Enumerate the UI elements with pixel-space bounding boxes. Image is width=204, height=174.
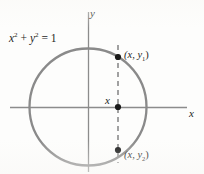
point-upper-intersection [115, 54, 121, 60]
lower-point-label-close: ) [145, 149, 149, 160]
equation-equals-one: = 1 [39, 32, 57, 44]
point-lower-intersection [115, 147, 121, 153]
x-value-marker-label: x [105, 95, 110, 106]
upper-point-label-open: (x, y [124, 49, 142, 60]
lower-point-label: (x, y2) [124, 150, 149, 161]
figure-canvas [0, 0, 204, 174]
math-figure-unit-circle: x2 + y2 = 1 y x x (x, y1) (x, y2) [0, 0, 204, 174]
point-on-x-axis [115, 104, 121, 110]
lower-point-label-open: (x, y [124, 149, 142, 160]
equation-label: x2 + y2 = 1 [9, 33, 57, 45]
upper-point-label: (x, y1) [124, 50, 149, 61]
upper-point-label-close: ) [145, 49, 149, 60]
x-axis-label: x [189, 108, 194, 119]
y-axis-label: y [90, 8, 95, 19]
equation-plus: + [18, 32, 30, 44]
